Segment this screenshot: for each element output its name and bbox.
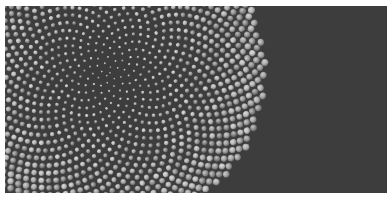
sphere: [19, 57, 24, 62]
sphere: [164, 141, 169, 146]
sphere: [194, 87, 199, 92]
sphere: [201, 147, 207, 153]
sphere: [20, 122, 25, 127]
sphere: [214, 7, 220, 13]
sphere: [239, 8, 246, 15]
sphere: [116, 172, 122, 177]
sphere: [32, 101, 37, 106]
sphere: [23, 175, 30, 182]
sphere: [33, 15, 38, 20]
sphere: [25, 99, 30, 104]
sphere: [36, 132, 41, 137]
sphere: [42, 19, 46, 23]
sphere: [126, 12, 130, 16]
sphere: [208, 48, 214, 54]
sphere: [8, 39, 14, 44]
sphere: [157, 7, 162, 12]
phyllotaxis-plot: [5, 6, 387, 193]
sphere: [121, 153, 126, 158]
sphere: [179, 141, 185, 146]
sphere: [186, 123, 191, 128]
sphere: [188, 71, 193, 76]
sphere: [216, 133, 222, 139]
sphere: [28, 56, 33, 61]
sphere: [221, 110, 228, 116]
sphere: [248, 7, 256, 15]
sphere: [221, 11, 228, 17]
sphere: [221, 88, 227, 94]
sphere: [212, 104, 218, 110]
sphere: [242, 144, 250, 151]
sphere: [249, 81, 256, 88]
sphere: [26, 91, 31, 96]
sphere: [175, 162, 181, 168]
sphere: [10, 157, 17, 163]
sphere: [185, 174, 192, 181]
sphere: [19, 45, 24, 50]
sphere: [224, 94, 230, 100]
sphere: [62, 153, 67, 158]
sphere: [29, 147, 35, 153]
sphere: [14, 64, 19, 69]
sphere: [170, 124, 175, 129]
sphere: [206, 178, 213, 185]
sphere: [40, 6, 45, 10]
sphere: [142, 163, 147, 168]
sphere: [53, 170, 59, 176]
sphere: [14, 84, 20, 90]
sphere: [155, 184, 161, 190]
sphere: [40, 125, 45, 130]
sphere: [175, 114, 180, 119]
sphere: [178, 128, 183, 133]
sphere: [29, 45, 33, 50]
sphere: [25, 138, 31, 144]
sphere: [15, 174, 22, 180]
sphere: [253, 57, 260, 64]
sphere: [46, 170, 52, 176]
sphere: [26, 123, 31, 128]
sphere: [222, 148, 229, 155]
sphere: [198, 93, 203, 98]
sphere: [155, 106, 159, 110]
figure-canvas: [0, 0, 391, 207]
sphere: [177, 121, 182, 126]
sphere: [39, 110, 43, 114]
sphere: [12, 101, 17, 107]
phyllotaxis-image-plate: [5, 6, 387, 193]
sphere: [202, 52, 207, 58]
sphere: [182, 181, 188, 187]
sphere: [113, 165, 118, 170]
sphere: [15, 144, 21, 150]
sphere: [193, 125, 199, 131]
sphere: [175, 20, 180, 25]
sphere: [7, 88, 12, 93]
sphere: [208, 148, 214, 154]
sphere: [202, 133, 208, 139]
sphere: [199, 81, 204, 86]
sphere: [246, 74, 253, 80]
sphere: [23, 168, 30, 175]
sphere: [156, 98, 160, 101]
sphere: [86, 149, 91, 154]
sphere: [14, 51, 19, 56]
sphere: [58, 37, 62, 41]
sphere: [186, 144, 192, 149]
sphere: [178, 188, 184, 193]
sphere: [22, 80, 27, 85]
sphere: [17, 12, 22, 18]
sphere: [209, 98, 215, 103]
sphere: [53, 177, 59, 183]
sphere: [225, 32, 231, 38]
